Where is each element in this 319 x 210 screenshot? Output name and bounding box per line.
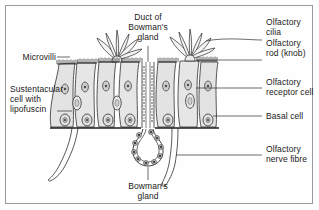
label-olfactory-rod-knob: Olfactory rod (knob)	[266, 38, 319, 58]
label-microvilli: Microvilli	[4, 52, 56, 62]
label-duct-of-bowmans-gland: Duct of Bowman's gland	[106, 12, 190, 43]
label-olfactory-nerve-fibre: Olfactory nerve fibre	[266, 144, 318, 164]
label-basal-cell: Basal cell	[266, 111, 318, 121]
label-sustentacular-cell: Sustentacular cell with lipofuscin	[10, 84, 80, 115]
figure-canvas: Duct of Bowman's gland Olfactory cilia O…	[0, 0, 319, 210]
bowmans-gland	[132, 129, 164, 166]
leader-cilia	[206, 39, 262, 41]
olfactory-rod-knob-right	[185, 55, 195, 61]
label-olfactory-receptor-cell: Olfactory receptor cell	[266, 77, 319, 97]
duct-of-bowmans-gland	[142, 62, 154, 128]
label-olfactory-cilia: Olfactory cilia	[266, 17, 318, 37]
label-bowmans-gland: Bowman's gland	[110, 181, 186, 201]
